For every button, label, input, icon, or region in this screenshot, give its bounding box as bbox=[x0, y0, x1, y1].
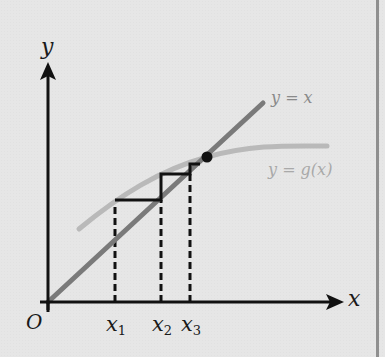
tick-x2-name: x bbox=[152, 312, 164, 336]
frame-border-right bbox=[376, 0, 379, 357]
g-curve-label: y = g(x) bbox=[268, 162, 332, 178]
tick-x3-name: x bbox=[181, 312, 193, 336]
x-axis-label: x bbox=[348, 288, 360, 310]
tick-label-x1: x1 bbox=[106, 314, 126, 337]
origin-label: O bbox=[26, 312, 42, 332]
identity-line-label: y = x bbox=[271, 90, 313, 106]
tick-x2-sub: 2 bbox=[164, 323, 172, 338]
tick-x3-sub: 3 bbox=[193, 323, 201, 338]
y-axis-label: y bbox=[41, 36, 53, 58]
tick-x1-name: x bbox=[106, 312, 118, 336]
line-identity bbox=[48, 103, 263, 302]
tick-label-x3: x3 bbox=[181, 314, 201, 337]
tick-x1-sub: 1 bbox=[118, 323, 126, 338]
diagram-frame: y x O y = x y = g(x) x1 x2 x3 bbox=[0, 0, 385, 357]
fixed-point-dot bbox=[202, 152, 213, 163]
tick-label-x2: x2 bbox=[152, 314, 172, 337]
